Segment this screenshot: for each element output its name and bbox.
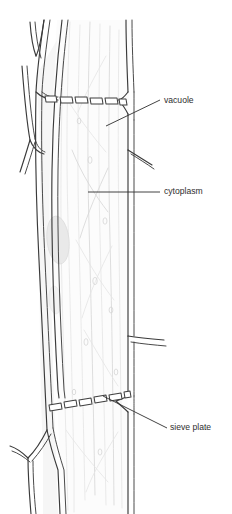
- label-vacuole: vacuole: [164, 95, 194, 105]
- sieve-tube-diagram: vacuole cytoplasm sieve plate: [0, 0, 232, 514]
- label-sieve-plate: sieve plate: [170, 422, 211, 432]
- label-cytoplasm: cytoplasm: [164, 186, 203, 196]
- diagram-canvas: vacuole cytoplasm sieve plate: [0, 0, 232, 514]
